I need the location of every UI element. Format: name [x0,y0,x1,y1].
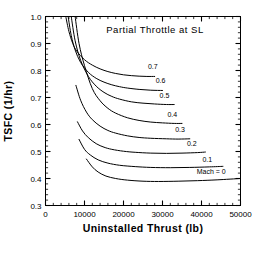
y-tick-label: 0.6 [30,121,42,130]
curve-label: 0.7 [148,63,158,70]
y-tick-label: 0.9 [30,40,42,49]
y-tick-label: 1.0 [30,13,42,22]
y-tick-label: 0.7 [30,94,42,103]
curve-label: 0.1 [202,156,212,163]
curve-label: Mach = 0 [197,168,226,175]
plot-frame [46,17,241,206]
x-tick-label: 20000 [112,210,135,219]
chart-svg: 010000200003000040000500000.30.40.50.60.… [0,0,264,256]
y-tick-label: 0.4 [30,175,42,184]
plot-title: Partial Throttle at SL [106,24,203,35]
y-axis-title: TSFC (1/hr) [2,81,14,142]
x-tick-label: 40000 [190,210,213,219]
curve-label: 0.3 [175,126,185,133]
y-tick-label: 0.5 [30,148,42,157]
x-tick-label: 30000 [151,210,174,219]
x-tick-label: 10000 [73,210,96,219]
curve-label: 0.5 [160,92,170,99]
x-tick-label: 0 [43,210,48,219]
chart-figure: 010000200003000040000500000.30.40.50.60.… [0,0,264,256]
x-tick-label: 50000 [229,210,252,219]
curve-label: 0.6 [156,77,166,84]
curve-label: 0.4 [167,111,177,118]
curves-group [66,17,241,182]
y-tick-label: 0.3 [30,202,42,211]
curve-label: 0.2 [187,140,197,147]
x-axis-title: Uninstalled Thrust (lb) [83,222,204,234]
y-tick-label: 0.8 [30,67,42,76]
